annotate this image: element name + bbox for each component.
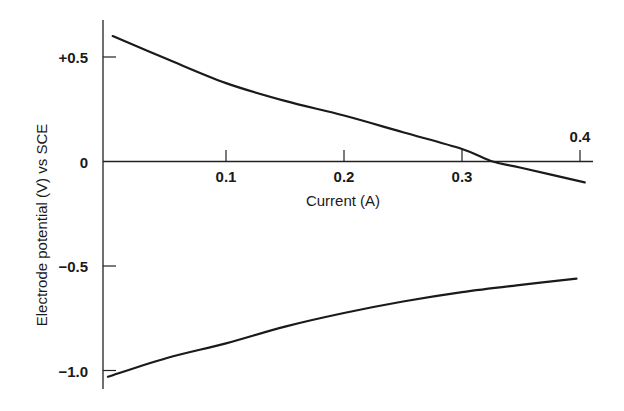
upper-curve xyxy=(113,36,585,182)
x-ticks: 0.10.20.30.4 xyxy=(216,128,592,185)
x-tick-label: 0.4 xyxy=(570,128,592,145)
chart: +0.50−0.5−1.0 0.10.20.30.4 Current (A) E… xyxy=(0,0,624,411)
y-tick-label: +0.5 xyxy=(58,49,88,66)
y-ticks: +0.50−0.5−1.0 xyxy=(58,49,116,380)
y-tick-label: −0.5 xyxy=(58,258,88,275)
y-tick-label: −1.0 xyxy=(58,363,88,380)
lower-curve xyxy=(108,279,576,377)
y-axis-title: Electrode potential (V) vs SCE xyxy=(33,124,50,327)
x-axis-title: Current (A) xyxy=(306,192,380,209)
y-tick-label: 0 xyxy=(80,154,88,171)
x-tick-label: 0.2 xyxy=(334,168,355,185)
x-tick-label: 0.1 xyxy=(216,168,237,185)
x-tick-label: 0.3 xyxy=(452,168,473,185)
